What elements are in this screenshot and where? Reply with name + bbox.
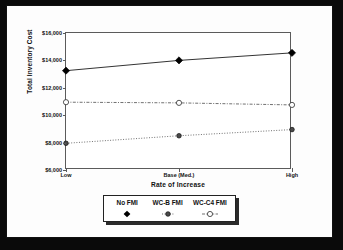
chart-figure: Total Inventory Cost $16,000$14,000$12,0… [7,6,332,237]
legend-item: No FMI [111,198,143,219]
y-axis-tick-mark [63,60,66,61]
filled-diamond-marker [112,209,142,219]
legend-item-label: No FMI [117,198,138,207]
x-axis-tick-label: High [286,172,298,178]
y-axis-tick-label: $16,000 [42,30,62,36]
data-point-marker [288,49,295,56]
data-point-marker [289,102,294,107]
y-axis-tick-label: $12,000 [42,85,62,91]
y-axis-tick-mark [63,143,66,144]
x-axis-title: Rate of Increase [65,181,291,188]
x-axis-tick-mark [66,168,67,172]
open-circle-marker [195,209,225,219]
plot-area: $16,000$14,000$12,000$10,000$8,000$6,000… [65,32,291,169]
data-point-marker [63,100,68,105]
series-wc-c4-fmi [63,100,294,108]
x-axis-tick-mark [292,168,293,172]
legend-item-label: WC-C4 FMI [193,198,227,207]
y-axis-tick-mark [63,88,66,89]
screenshot-frame: Total Inventory Cost $16,000$14,000$12,0… [0,0,343,250]
y-axis-tick-label: $14,000 [42,57,62,63]
y-axis-tick-mark [63,115,66,116]
x-axis-tick-label: Low [61,172,72,178]
chart-legend: No FMIWC-B FMIWC-C4 FMI [103,195,236,222]
series-no-fmi [62,49,295,74]
data-point-marker [62,67,69,74]
series-wc-b-fmi [64,127,295,145]
chart-card: Total Inventory Cost $16,000$14,000$12,0… [6,5,333,238]
data-point-marker [177,133,182,138]
data-point-marker [290,127,295,132]
legend-item-label: WC-B FMI [153,198,183,207]
small-circle-marker [153,209,183,219]
y-axis-tick-label: $8,000 [45,140,62,146]
x-axis-tick-mark [179,168,180,172]
data-point-marker [176,100,181,105]
legend-item: WC-C4 FMI [192,198,228,219]
x-axis-tick-label: Base (Med.) [164,172,195,178]
y-axis-tick-label: $6,000 [45,167,62,173]
y-axis-tick-label: $10,000 [42,112,62,118]
y-axis-tick-mark [63,33,66,34]
y-axis-title: Total Inventory Cost [26,7,33,117]
legend-item: WC-B FMI [152,198,184,219]
data-point-marker [175,57,182,64]
series-layer [66,33,292,170]
